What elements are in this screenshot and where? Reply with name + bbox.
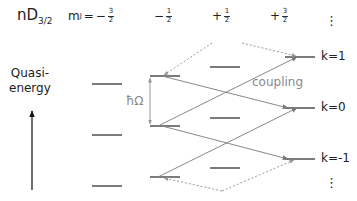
k-label-0: k=0	[321, 100, 346, 114]
k-label-minus-1: k=-1	[321, 151, 350, 165]
levels-mj-minus-3-2	[92, 84, 122, 186]
hbar-omega-label: ħΩ	[126, 94, 144, 108]
bottom-ellipsis: ⋮	[325, 176, 338, 189]
levels-mj-plus-1-2	[210, 67, 240, 168]
coupling-label: coupling	[252, 75, 303, 89]
dashed-continuation-arrows	[164, 43, 296, 191]
levels-mj-plus-3-2	[285, 57, 315, 159]
k-label-1: k=1	[321, 49, 346, 63]
floquet-level-diagram	[0, 0, 357, 201]
